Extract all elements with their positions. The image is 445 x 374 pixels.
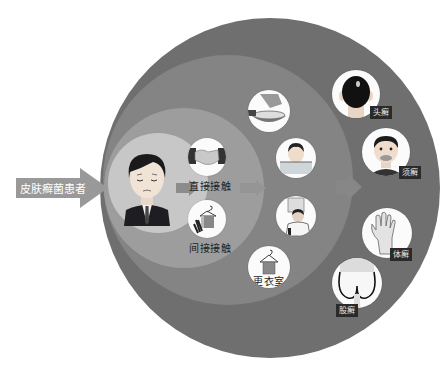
tinea-cruris-tag: 股癣	[336, 304, 358, 317]
basin-washing-icon	[248, 90, 290, 132]
handshake-icon	[188, 138, 226, 176]
direct-contact-label: 直接接触	[189, 178, 231, 193]
sad-man-in-suit-icon	[116, 148, 178, 226]
barber-haircut-icon	[276, 196, 316, 236]
arrow-settings-to-diseases	[336, 174, 362, 204]
arrow-contact-to-settings	[240, 180, 266, 200]
clothes-hanger-towel-icon	[188, 200, 226, 238]
patient-arrow-label: 皮肤癣菌患者	[20, 180, 86, 196]
tinea-capitis-tag: 头癣	[370, 106, 392, 119]
bathing-pool-icon	[276, 138, 316, 178]
tinea-barbae-tag: 须癣	[399, 166, 421, 179]
patient-arrow: 皮肤癣菌患者	[16, 168, 108, 208]
indirect-contact-label: 间接接触	[189, 240, 231, 255]
buttocks-icon	[332, 258, 382, 308]
locker-room-label: 更衣室	[253, 273, 285, 288]
tinea-corporis-tag: 体癣	[390, 248, 412, 261]
locker-room-hanger-icon: 更衣室	[248, 246, 290, 288]
